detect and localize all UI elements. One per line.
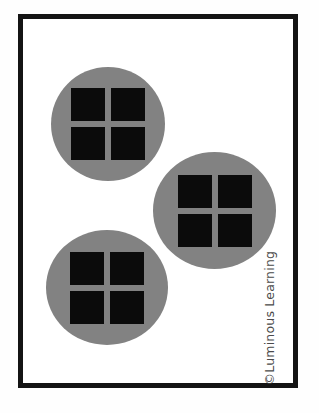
group-circle-1 — [51, 67, 165, 181]
square-grid-2 — [178, 175, 252, 247]
unit-square-2-2 — [218, 175, 252, 208]
group-circle-3 — [46, 230, 168, 345]
copyright-notice: ©Luminous Learning — [264, 251, 277, 386]
unit-square-2-3 — [178, 214, 212, 247]
unit-square-3-2 — [110, 252, 144, 285]
unit-square-1-3 — [71, 127, 105, 160]
worksheet-frame-inner — [23, 19, 293, 383]
square-grid-1 — [71, 88, 145, 160]
unit-square-1-1 — [71, 88, 105, 121]
worksheet-frame — [18, 14, 298, 388]
unit-square-3-3 — [70, 291, 104, 324]
unit-square-3-4 — [110, 291, 144, 324]
worksheet-canvas: ©Luminous Learning — [0, 0, 319, 413]
unit-square-2-1 — [178, 175, 212, 208]
square-grid-3 — [70, 252, 144, 324]
unit-square-1-2 — [111, 88, 145, 121]
unit-square-2-4 — [218, 214, 252, 247]
unit-square-3-1 — [70, 252, 104, 285]
group-circle-2 — [153, 152, 276, 269]
unit-square-1-4 — [111, 127, 145, 160]
